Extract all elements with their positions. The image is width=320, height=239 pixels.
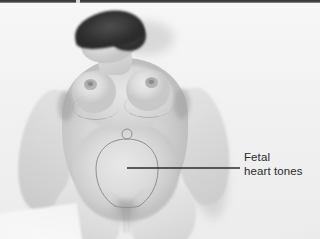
fetal-heart-tones-callout: Fetal heart tones [244, 151, 303, 178]
fundal-outline [96, 139, 158, 208]
umbilicus-mark [122, 129, 132, 139]
callout-label-line1: Fetal [244, 151, 303, 165]
callout-label-line2: heart tones [244, 165, 303, 179]
clinical-figure: Fetal heart tones [0, 0, 320, 239]
annotation-overlay [0, 0, 320, 239]
